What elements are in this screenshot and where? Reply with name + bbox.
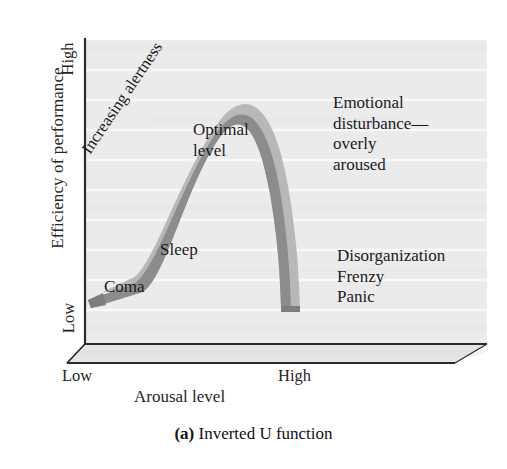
caption-text: Inverted U function (199, 424, 333, 443)
annotation-optimal-level: Optimal level (193, 120, 249, 161)
x-axis-title: Arousal level (134, 387, 225, 407)
x-tick-low: Low (62, 366, 92, 386)
annotation-emotional-disturbance: Emotional disturbance— overly aroused (333, 93, 428, 175)
y-tick-high: High (58, 35, 78, 83)
annotation-disorganization: Disorganization Frenzy Panic (337, 246, 445, 308)
floor-texture (78, 350, 487, 356)
caption-letter: (a) (174, 424, 194, 443)
x-tick-high: High (278, 366, 311, 386)
figure-caption: (a) Inverted U function (0, 424, 507, 444)
annotation-sleep: Sleep (160, 240, 198, 261)
annotation-coma: Coma (104, 277, 145, 298)
y-tick-low: Low (59, 294, 79, 342)
inverted-u-function-figure: Efficiency of performance Arousal level … (0, 0, 507, 469)
curve-end-cap (281, 306, 300, 312)
